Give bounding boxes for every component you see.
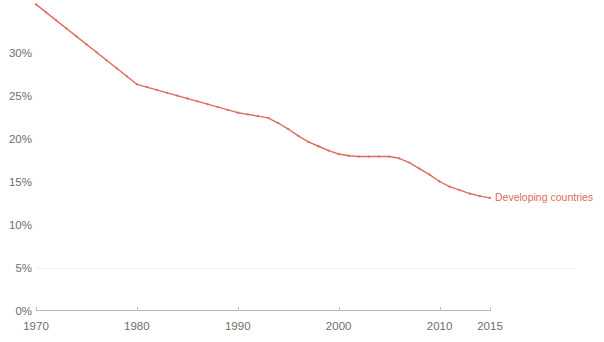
series-data-point: [186, 97, 188, 99]
y-axis-tick-label: 10%: [9, 219, 32, 231]
y-axis-tick-label: 15%: [9, 176, 32, 188]
series-data-point: [348, 155, 350, 157]
series-data-point: [257, 115, 259, 117]
series-data-point: [489, 197, 491, 199]
y-axis-tick-label: 0%: [15, 305, 32, 317]
series-data-point: [227, 109, 229, 111]
series-data-point: [45, 11, 47, 13]
series-data-point: [338, 153, 340, 155]
series-data-point: [35, 3, 37, 5]
series-data-point: [408, 161, 410, 163]
series-data-point: [438, 180, 440, 182]
x-axis-tick-label: 2010: [427, 320, 453, 332]
series-data-point: [307, 141, 309, 143]
series-data-point: [55, 19, 57, 21]
y-axis-tick-label: 25%: [9, 90, 32, 102]
series-data-point: [176, 95, 178, 97]
series-data-point: [327, 149, 329, 151]
series-data-point: [126, 75, 128, 77]
line-chart: 0%5%10%15%20%25%30% 19701980199020002010…: [0, 0, 604, 342]
series-data-point: [105, 59, 107, 61]
series-data-point: [448, 186, 450, 188]
chart-canvas: 0%5%10%15%20%25%30% 19701980199020002010…: [0, 0, 604, 342]
x-axis-tick-label: 1990: [225, 320, 251, 332]
y-axis-tick-labels: 0%5%10%15%20%25%30%: [9, 47, 32, 317]
series-data-point: [398, 157, 400, 159]
series-data-point: [216, 106, 218, 108]
series-data-point: [75, 35, 77, 37]
series-data-point: [247, 113, 249, 115]
series-data-point: [469, 192, 471, 194]
series-data-point: [418, 167, 420, 169]
series-data-point: [146, 86, 148, 88]
x-axis-ticks: [37, 307, 491, 311]
series-data-point: [297, 135, 299, 137]
series-developing-countries: [35, 3, 491, 199]
x-axis-tick-label: 1980: [124, 320, 150, 332]
series-data-point: [459, 189, 461, 191]
y-axis-tick-label: 5%: [15, 262, 32, 274]
series-data-point: [196, 100, 198, 102]
series-data-point: [287, 128, 289, 130]
series-data-point: [206, 103, 208, 105]
y-axis-tick-label: 30%: [9, 47, 32, 59]
x-axis-tick-label: 2000: [326, 320, 352, 332]
series-data-point: [156, 89, 158, 91]
series-data-point: [378, 155, 380, 157]
series-data-point: [267, 117, 269, 119]
series-data-point: [237, 112, 239, 114]
series-data-point: [85, 43, 87, 45]
series-data-point: [95, 51, 97, 53]
series-data-point: [277, 122, 279, 124]
series-inline-legend: Developing countries: [495, 191, 593, 203]
x-axis-tick-label: 1970: [23, 320, 49, 332]
x-axis-tick-label: 2015: [477, 320, 503, 332]
series-data-point: [479, 195, 481, 197]
series-data-point: [136, 83, 138, 85]
series-data-point: [428, 173, 430, 175]
series-data-point: [358, 155, 360, 157]
series-data-point: [65, 27, 67, 29]
y-axis-tick-label: 20%: [9, 133, 32, 145]
series-data-point: [368, 155, 370, 157]
series-data-point: [116, 67, 118, 69]
x-axis-tick-labels: 197019801990200020102015: [23, 320, 503, 332]
series-legend-label: Developing countries: [495, 191, 593, 203]
series-data-point: [317, 145, 319, 147]
series-data-point: [388, 155, 390, 157]
series-data-point: [166, 92, 168, 94]
series-line: [36, 4, 490, 198]
